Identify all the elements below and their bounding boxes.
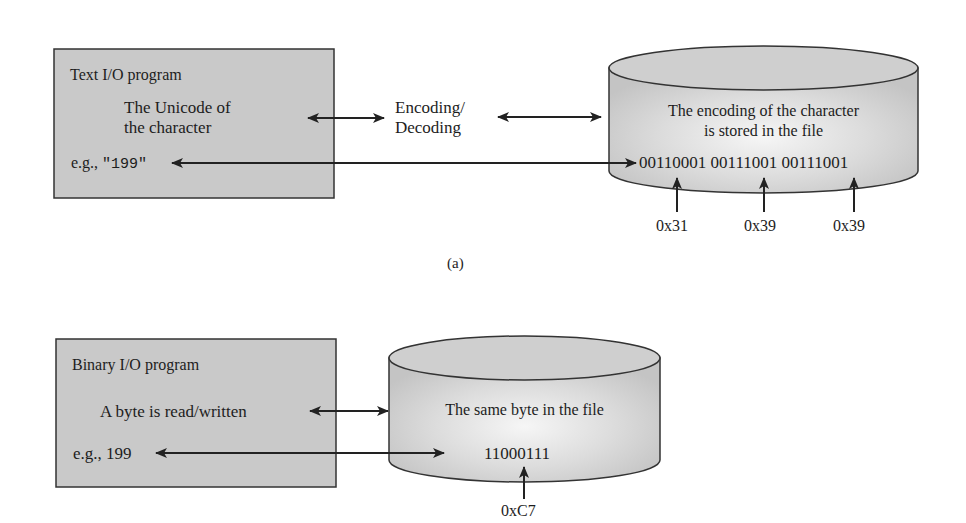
text-example-label: e.g., "199" [71,153,147,175]
hex-label-0x39-first: 0x39 [744,216,776,236]
binary-bits-label: 11000111 [484,444,550,464]
text-file-line-1: The encoding of the character [609,101,918,121]
byte-read-written-label: A byte is read/written [100,402,247,422]
encoding-line: Encoding/ [395,98,465,118]
hex-label-0x39-second: 0x39 [833,216,865,236]
caption-a: (a) [447,253,464,273]
binary-io-program-title: Binary I/O program [72,355,199,375]
text-io-program-title: Text I/O program [70,65,182,85]
text-file-description: The encoding of the character is stored … [609,101,918,141]
example-prefix: e.g., [71,154,102,171]
binary-file-description: The same byte in the file [389,400,660,420]
unicode-line-1: The Unicode of [124,98,231,118]
decoding-line: Decoding [395,118,465,138]
text-file-line-2: is stored in the file [609,121,918,141]
binary-example-label: e.g., 199 [73,444,132,464]
unicode-of-character-label: The Unicode of the character [124,98,231,138]
encoding-decoding-label: Encoding/ Decoding [395,98,465,138]
unicode-line-2: the character [124,118,231,138]
hex-label-0x31: 0x31 [656,216,688,236]
encoded-bits-label: 00110001 00111001 00111001 [639,153,848,173]
example-string-value: "199" [102,156,147,173]
hex-label-0xC7: 0xC7 [501,501,536,521]
